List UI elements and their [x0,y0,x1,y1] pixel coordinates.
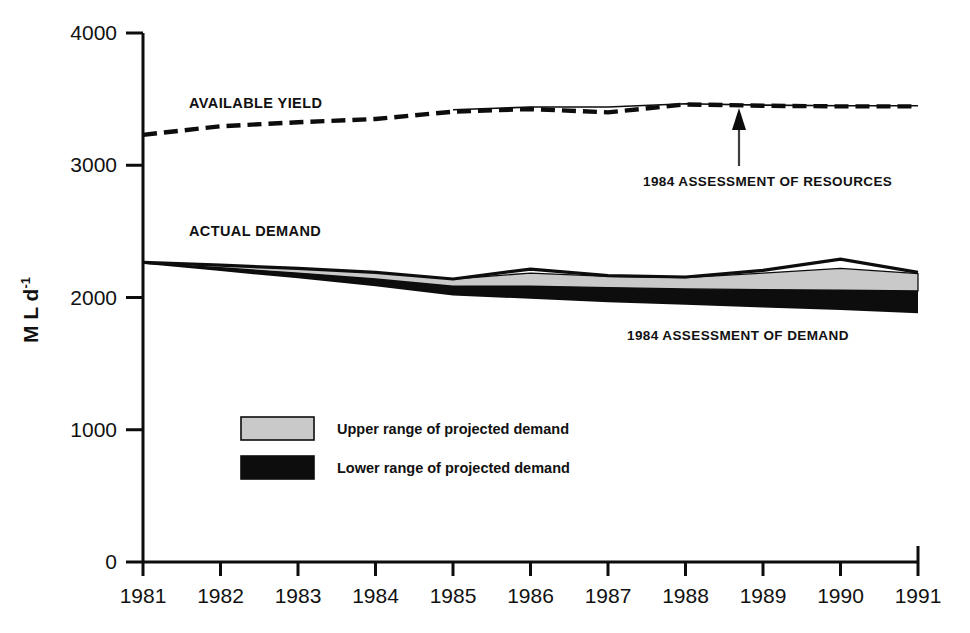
x-tick-label: 1988 [662,584,709,607]
x-tick-label: 1983 [275,584,322,607]
x-tick-label: 1986 [507,584,554,607]
y-tick-label: 1000 [70,418,117,441]
actual-demand-label: ACTUAL DEMAND [189,223,321,239]
x-tick-label: 1990 [817,584,864,607]
chart-background [0,0,970,633]
y-axis-title-base: M L d [19,289,42,343]
x-tick-label: 1981 [120,584,167,607]
y-tick-label: 2000 [70,286,117,309]
x-tick-label: 1989 [740,584,787,607]
demand-yield-chart: 01000200030004000 1981198219831984198519… [0,0,970,633]
x-tick-label: 1991 [895,584,942,607]
x-axis-tick-labels: 1981198219831984198519861987198819891990… [120,584,942,607]
y-tick-label: 3000 [70,153,117,176]
y-axis-title-exponent: -1 [18,277,33,289]
chart-container: 01000200030004000 1981198219831984198519… [0,0,970,633]
available-yield-label: AVAILABLE YIELD [189,95,322,111]
y-tick-label: 0 [105,550,117,573]
x-tick-label: 1987 [585,584,632,607]
resources-annotation-text: 1984 ASSESSMENT OF RESOURCES [643,174,892,189]
x-tick-label: 1982 [197,584,244,607]
legend-swatch-lower-range [241,456,314,479]
legend-swatch-upper-range [241,417,314,440]
legend-label-upper-range: Upper range of projected demand [337,421,569,437]
demand-annotation-text: 1984 ASSESSMENT OF DEMAND [627,328,849,343]
y-tick-label: 4000 [70,21,117,44]
legend-label-lower-range: Lower range of projected demand [337,460,570,476]
x-tick-label: 1984 [352,584,399,607]
x-tick-label: 1985 [430,584,477,607]
